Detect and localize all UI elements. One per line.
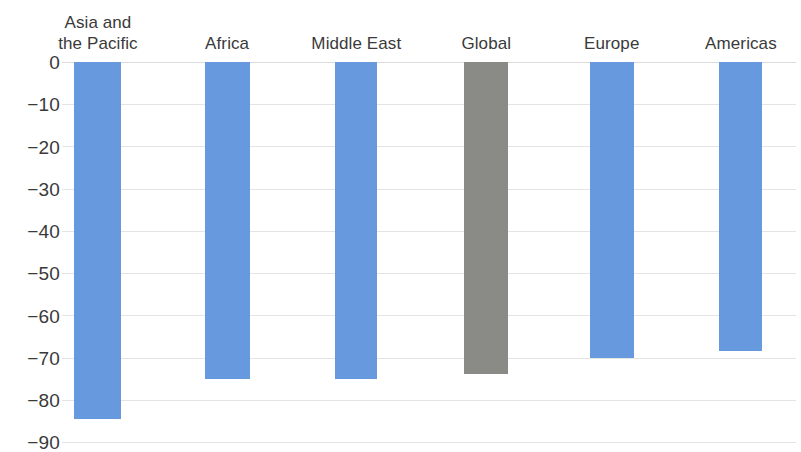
category-label: Americas (705, 33, 777, 54)
plot-area (62, 62, 796, 442)
bar[interactable] (464, 62, 508, 374)
bar[interactable] (335, 62, 377, 379)
gridline (62, 146, 796, 147)
gridline (62, 358, 796, 359)
y-tick-label: −50 (8, 264, 60, 283)
gridline (62, 231, 796, 232)
gridline (62, 315, 796, 316)
category-label: Global (461, 33, 511, 54)
y-tick-label: −40 (8, 222, 60, 241)
y-tick-label: −70 (8, 349, 60, 368)
gridline (62, 104, 796, 105)
category-label: Middle East (311, 33, 401, 54)
bar[interactable] (719, 62, 762, 351)
gridline (62, 62, 796, 63)
gridline (62, 273, 796, 274)
bar[interactable] (590, 62, 634, 358)
y-tick-label: −90 (8, 433, 60, 452)
bar-chart: 0 −10 −20 −30 −40 −50 −60 −70 −80 −90 As… (0, 0, 801, 452)
gridline (62, 400, 796, 401)
y-tick-label: −60 (8, 307, 60, 326)
y-tick-label: −30 (8, 180, 60, 199)
category-label: Africa (205, 33, 249, 54)
category-label: Asia and the Pacific (58, 12, 138, 54)
gridline (62, 189, 796, 190)
y-tick-label: 0 (8, 53, 60, 72)
y-tick-label: −10 (8, 95, 60, 114)
bar[interactable] (205, 62, 250, 379)
category-label: Europe (584, 33, 639, 54)
y-tick-label: −80 (8, 391, 60, 410)
y-tick-label: −20 (8, 138, 60, 157)
bar[interactable] (74, 62, 121, 419)
gridline (62, 442, 796, 443)
